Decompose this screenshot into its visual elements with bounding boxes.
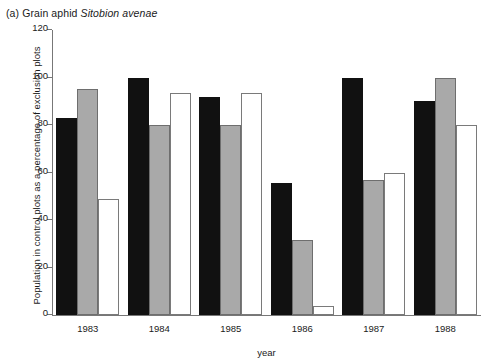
x-axis-title: year [52, 347, 481, 358]
chart-title-prefix: (a) Grain aphid [6, 7, 81, 19]
chart-title-species-name: Sitobion avenae [81, 7, 158, 19]
bar-1986-gray [292, 240, 313, 315]
y-axis-line [52, 30, 53, 315]
x-tick-label-1988: 1988 [410, 323, 482, 334]
bar-1983-black [56, 118, 77, 315]
bar-1984-white [170, 93, 191, 315]
bar-group-1986 [271, 30, 334, 315]
y-tick-label: 0 [43, 307, 48, 318]
y-tick-label: 60 [37, 165, 48, 176]
x-tick-label-1983: 1983 [52, 323, 124, 334]
bar-1986-black [271, 183, 292, 315]
bar-group-1983 [56, 30, 119, 315]
bar-1984-gray [149, 125, 170, 315]
y-tick-label: 40 [37, 212, 48, 223]
bar-1987-gray [363, 180, 384, 315]
bar-1985-white [241, 93, 262, 315]
bar-1987-white [384, 173, 405, 316]
bar-1987-black [342, 78, 363, 316]
bar-1988-gray [435, 78, 456, 316]
x-tick-label-1985: 1985 [195, 323, 267, 334]
bar-group-1987 [342, 30, 405, 315]
y-tick-label: 120 [32, 22, 48, 33]
x-tick-label-1986: 1986 [267, 323, 339, 334]
chart-title: (a) Grain aphid Sitobion avenae [6, 7, 157, 19]
y-tick-label: 100 [32, 70, 48, 81]
bar-group-1988 [414, 30, 477, 315]
bar-1983-gray [77, 89, 98, 315]
x-tick-label-1987: 1987 [338, 323, 410, 334]
bar-1988-white [456, 125, 477, 315]
figure: (a) Grain aphid Sitobion avenae Populati… [0, 0, 487, 359]
y-tick-label: 20 [37, 260, 48, 271]
bar-1986-white [313, 306, 334, 316]
x-tick-label-1984: 1984 [124, 323, 196, 334]
bar-1988-black [414, 101, 435, 315]
bar-group-1984 [128, 30, 191, 315]
bar-group-1985 [199, 30, 262, 315]
bar-1984-black [128, 78, 149, 316]
x-axis-line [52, 315, 481, 316]
bar-1985-black [199, 97, 220, 316]
bar-1983-white [98, 199, 119, 315]
plot-area: 020406080100120 198319841985198619871988… [52, 30, 481, 315]
y-tick-label: 80 [37, 117, 48, 128]
bar-1985-gray [220, 125, 241, 315]
